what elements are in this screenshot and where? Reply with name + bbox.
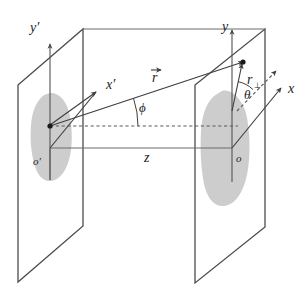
label-r-perp: r [247, 72, 253, 87]
label-theta: θ [244, 87, 251, 102]
label-r-vector-group: r [151, 70, 161, 85]
phi-angle-arc [134, 98, 138, 126]
label-y-prime: y′ [28, 20, 40, 35]
label-y: y [220, 19, 229, 34]
observation-point-marker [240, 59, 245, 64]
label-x: x [287, 81, 295, 96]
label-o-prime: o′ [33, 155, 42, 167]
label-r-vector: r [152, 70, 158, 85]
coordinate-geometry-diagram: y′ x′ o′ y x o z ϕ θ r r ⊥ [0, 0, 308, 297]
figure-container: y′ x′ o′ y x o z ϕ θ r r ⊥ [0, 0, 308, 297]
label-x-prime: x′ [105, 77, 116, 92]
source-intensity-blob [31, 93, 72, 181]
x-axis-dashed-extension [237, 71, 276, 111]
label-phi: ϕ [139, 100, 146, 115]
label-r-perp-subscript: ⊥ [254, 81, 261, 90]
source-point-marker [47, 123, 52, 128]
label-z: z [143, 150, 150, 165]
label-o: o [236, 152, 242, 164]
